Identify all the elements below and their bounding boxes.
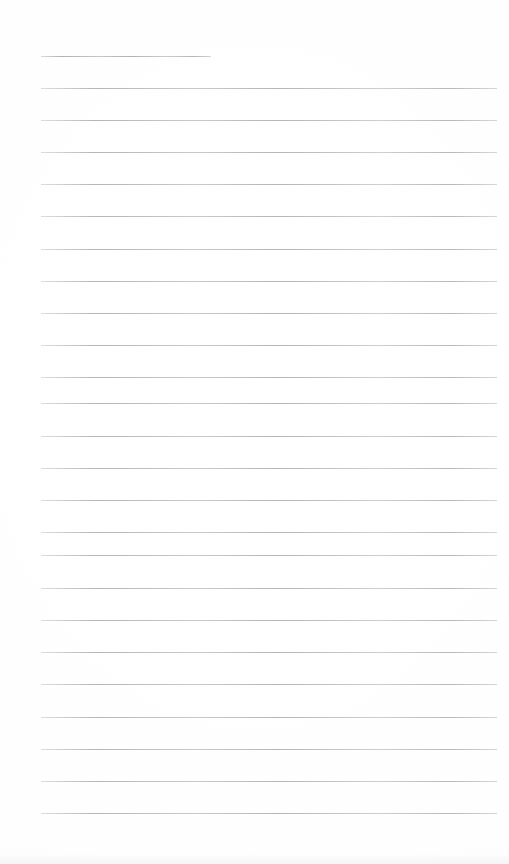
lined-paper-page xyxy=(0,0,509,864)
ruled-line xyxy=(41,652,497,653)
ruled-line xyxy=(41,468,497,469)
ruled-line xyxy=(41,216,497,217)
ruled-line xyxy=(41,555,497,556)
ruled-line xyxy=(41,588,497,589)
ruled-line xyxy=(41,749,497,750)
ruled-line xyxy=(41,56,211,57)
ruled-line xyxy=(41,313,497,314)
ruled-line xyxy=(41,620,497,621)
ruled-line xyxy=(41,500,497,501)
ruled-line xyxy=(41,120,497,121)
ruled-line xyxy=(41,436,497,437)
writing-area[interactable] xyxy=(0,0,509,864)
ruled-line xyxy=(41,781,497,782)
ruled-line xyxy=(41,532,497,533)
ruled-line xyxy=(41,684,497,685)
ruled-line xyxy=(41,184,497,185)
ruled-line xyxy=(41,281,497,282)
ruled-line xyxy=(41,345,497,346)
ruled-line xyxy=(41,152,497,153)
ruled-line xyxy=(41,88,497,89)
ruled-line xyxy=(41,249,497,250)
ruled-line xyxy=(41,377,497,378)
ruled-line xyxy=(41,813,497,814)
ruled-line xyxy=(41,403,497,404)
ruled-line xyxy=(41,717,497,718)
